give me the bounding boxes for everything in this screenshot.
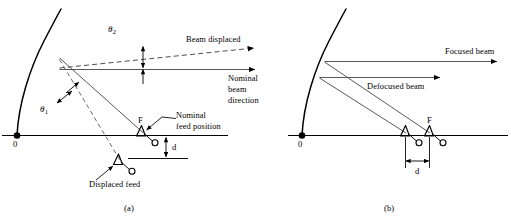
panel-a-nominal-feed-waveguide bbox=[152, 140, 158, 146]
panel-a-displaced-beam-line bbox=[60, 48, 255, 68]
panel-b-defocused-feed-waveguide bbox=[416, 140, 422, 146]
panel-a-reflector-curve bbox=[17, 9, 61, 136]
figure-reflector-feed-displacement: θ2 Beam displaced Nominal beam direction… bbox=[0, 0, 511, 224]
panel-a-nominal-feed-position-label: Nominal feed position bbox=[176, 111, 221, 133]
panel-b-ray-to-focused-feed bbox=[325, 62, 431, 133]
panel-a-ray-to-displaced-feed bbox=[60, 60, 123, 164]
panel-a-beam-displaced-label: Beam displaced bbox=[186, 35, 241, 46]
panel-a-caption: (a) bbox=[124, 203, 134, 214]
nominal-beam-direction-line-2: beam bbox=[228, 85, 259, 96]
nominal-feed-position-line-2: feed position bbox=[176, 122, 221, 133]
panel-b-vertex-dot bbox=[299, 132, 306, 139]
panel-a-displaced-feed-leader bbox=[96, 166, 113, 180]
nominal-beam-direction-line-3: direction bbox=[228, 96, 259, 107]
nominal-feed-position-line-1: Nominal bbox=[176, 111, 221, 122]
panel-a-offset-dimension-label: d bbox=[172, 142, 176, 153]
panel-b-focused-beam-label: Focused beam bbox=[445, 47, 494, 58]
panel-b-defocused-beam-label: Defocused beam bbox=[367, 82, 424, 93]
panel-a-focus-label: F bbox=[138, 115, 143, 126]
panel-a-theta1-arrow-upper bbox=[66, 82, 79, 93]
panel-b-focus-label: F bbox=[427, 115, 432, 126]
panel-a-vertex-label: 0 bbox=[13, 139, 17, 150]
panel-b-offset-dimension-label: d bbox=[415, 166, 419, 177]
panel-b-focused-feed-waveguide bbox=[440, 140, 446, 146]
panel-a-displaced-feed-label: Displaced feed bbox=[89, 180, 140, 191]
figure-drawing-canvas bbox=[0, 0, 511, 224]
panel-a-nominal-feed-leader bbox=[147, 117, 177, 130]
panel-b-defocused-feed-stem bbox=[408, 134, 417, 142]
panel-b-caption: (b) bbox=[384, 203, 394, 214]
panel-a-vertex-dot bbox=[14, 132, 21, 139]
nominal-beam-direction-line-1: Nominal bbox=[228, 74, 259, 85]
panel-a-theta1-label: θ1 bbox=[40, 104, 48, 116]
panel-b-vertex-label: 0 bbox=[298, 139, 302, 150]
panel-a-nominal-feed-stem bbox=[144, 134, 153, 142]
panel-a-theta2-label: θ2 bbox=[108, 24, 116, 36]
panel-a-displaced-feed-waveguide bbox=[129, 168, 135, 174]
panel-b-focused-feed-stem bbox=[432, 134, 441, 142]
panel-a-displaced-feed-horn bbox=[114, 154, 123, 165]
panel-a-displaced-feed-stem bbox=[121, 162, 130, 170]
panel-a-nominal-beam-direction-label: Nominal beam direction bbox=[228, 74, 259, 107]
panel-b-focused-feed-horn bbox=[425, 126, 434, 137]
panel-a-theta1-arrow bbox=[57, 91, 72, 103]
